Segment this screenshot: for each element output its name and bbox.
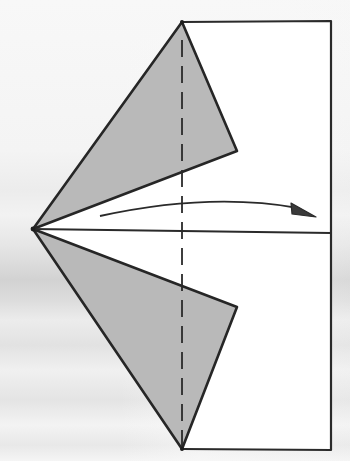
origami-diagram	[0, 0, 350, 461]
top-point	[180, 20, 184, 24]
bottom-point	[180, 447, 184, 451]
left-point	[31, 227, 36, 232]
diagram-canvas	[0, 0, 350, 461]
